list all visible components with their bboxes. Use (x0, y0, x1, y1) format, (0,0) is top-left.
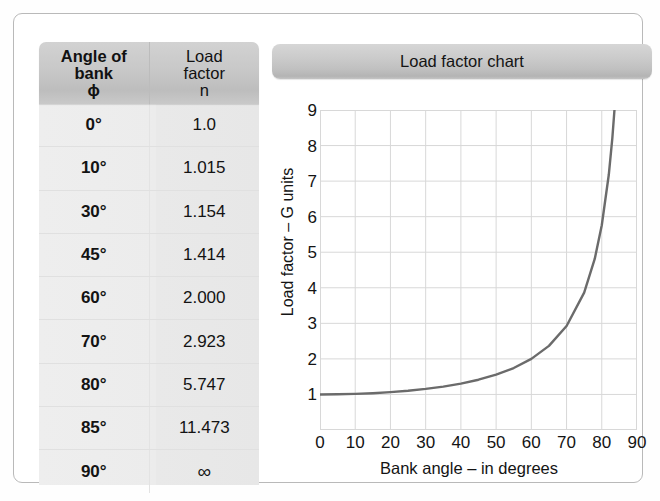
figure-card: Angle of bank ϕ Load factor n 0°1.010°1.… (13, 13, 643, 483)
x-tick-label: 80 (587, 433, 617, 453)
x-axis-label: Bank angle – in degrees (299, 459, 639, 478)
y-tick-label: 3 (295, 315, 317, 332)
x-tick-label: 40 (446, 433, 476, 453)
cell-angle-of-bank: 10° (39, 147, 150, 189)
header-load-line1: Load (186, 48, 223, 65)
cell-load-factor: 5.747 (150, 375, 260, 395)
y-axis-ticks: 123456789 (293, 93, 317, 483)
y-tick-label: 4 (295, 279, 317, 296)
x-tick-label: 90 (622, 433, 652, 453)
cell-angle-of-bank: 0° (39, 104, 150, 146)
table-row: 60°2.000 (39, 276, 259, 319)
x-tick-label: 20 (375, 433, 405, 453)
y-tick-label: 2 (295, 350, 317, 367)
x-tick-label: 10 (340, 433, 370, 453)
table-row: 10°1.015 (39, 146, 259, 189)
load-factor-table: Angle of bank ϕ Load factor n 0°1.010°1.… (39, 42, 259, 485)
table-row: 30°1.154 (39, 190, 259, 233)
cell-load-factor: ∞ (150, 461, 260, 483)
x-tick-label: 30 (411, 433, 441, 453)
table-header-load-factor: Load factor n (150, 42, 260, 104)
header-load-symbol-n: n (200, 82, 209, 99)
grid-lines (320, 110, 637, 430)
cell-angle-of-bank: 60° (39, 277, 150, 319)
cell-angle-of-bank: 90° (39, 450, 150, 492)
y-tick-label: 7 (295, 173, 317, 190)
table-row: 70°2.923 (39, 319, 259, 362)
y-tick-label: 8 (295, 137, 317, 154)
cell-load-factor: 2.923 (150, 332, 260, 352)
table-body: 0°1.010°1.01530°1.15445°1.41460°2.00070°… (39, 104, 259, 485)
x-tick-label: 0 (305, 433, 335, 453)
table-header-angle-of-bank: Angle of bank ϕ (39, 42, 150, 104)
y-tick-label: 5 (295, 244, 317, 261)
x-tick-label: 50 (481, 433, 511, 453)
y-tick-label: 1 (295, 386, 317, 403)
table-row: 0°1.0 (39, 104, 259, 146)
cell-load-factor: 1.0 (150, 115, 260, 135)
chart-panel: Load factor chart Load factor – G units … (259, 31, 644, 483)
cell-load-factor: 11.473 (150, 418, 260, 438)
table-row: 45°1.414 (39, 233, 259, 276)
table-row: 85°11.473 (39, 406, 259, 449)
header-angle-symbol-phi: ϕ (88, 82, 100, 99)
cell-load-factor: 1.154 (150, 202, 260, 222)
page-root: Angle of bank ϕ Load factor n 0°1.010°1.… (0, 0, 660, 501)
header-load-line2: factor (184, 65, 225, 82)
table-row: 80°5.747 (39, 363, 259, 406)
header-angle-line2: bank (74, 65, 113, 82)
plot-svg (320, 110, 637, 430)
cell-angle-of-bank: 30° (39, 191, 150, 233)
cell-load-factor: 1.015 (150, 158, 260, 178)
cell-angle-of-bank: 80° (39, 364, 150, 406)
cell-angle-of-bank: 70° (39, 320, 150, 362)
cell-angle-of-bank: 45° (39, 234, 150, 276)
cell-load-factor: 2.000 (150, 288, 260, 308)
y-tick-label: 6 (295, 208, 317, 225)
x-tick-label: 70 (552, 433, 582, 453)
x-axis-ticks: 0102030405060708090 (320, 433, 637, 457)
cell-angle-of-bank: 85° (39, 407, 150, 449)
header-angle-line1: Angle of (61, 48, 127, 65)
table-row: 90°∞ (39, 449, 259, 492)
y-tick-label: 9 (295, 102, 317, 119)
chart-title-bar: Load factor chart (272, 44, 652, 79)
cell-load-factor: 1.414 (150, 245, 260, 265)
plot-grid (320, 110, 637, 430)
plot-area: Load factor – G units 123456789 01020304… (259, 93, 644, 483)
x-tick-label: 60 (516, 433, 546, 453)
table-header-row: Angle of bank ϕ Load factor n (39, 42, 259, 104)
